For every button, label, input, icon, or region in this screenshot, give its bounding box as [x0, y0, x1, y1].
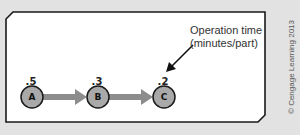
copyright-notice: © Cengage Learning 2013 [287, 20, 296, 114]
annotation-line-2: (minutes/part) [190, 37, 262, 50]
process-flow-diagram [0, 0, 300, 135]
node-b-letter: B [87, 86, 109, 108]
operation-time-annotation: Operation time (minutes/part) [190, 24, 262, 50]
annotation-line-1: Operation time [190, 24, 262, 37]
node-c-letter: C [153, 86, 175, 108]
node-a-letter: A [21, 86, 43, 108]
